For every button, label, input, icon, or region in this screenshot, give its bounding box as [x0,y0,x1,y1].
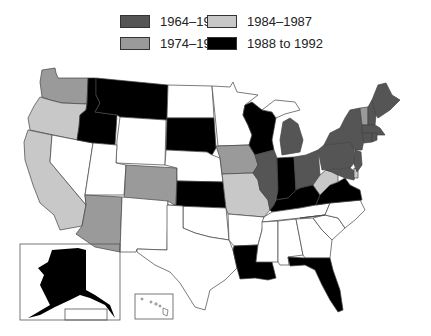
state-RI [372,133,377,142]
state-MI [280,118,303,155]
alaska-aleutians-inset [65,309,107,320]
state-ME [372,83,400,118]
state-NM [120,197,168,252]
us-map [0,0,431,336]
state-WY [116,117,166,165]
state-CT [362,133,372,143]
state-AK [28,248,115,318]
state-WA [40,68,88,104]
state-AR [228,214,264,246]
state-ND [167,85,214,118]
state-KS [176,181,226,208]
state-SD [166,118,216,155]
state-FL [288,257,343,312]
state-HI [141,298,168,316]
state-PA [318,142,355,170]
state-MT [95,78,168,120]
